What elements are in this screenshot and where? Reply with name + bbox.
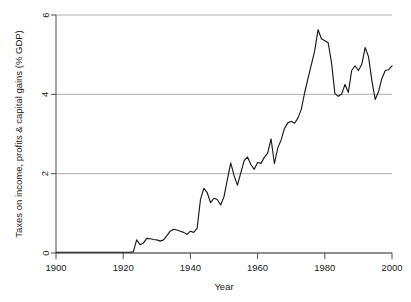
y-tick-marks — [51, 15, 56, 253]
data-series-line — [56, 30, 392, 253]
y-tick-label-6: 6 — [40, 12, 51, 17]
y-tick-labels: 6 4 2 0 — [40, 12, 51, 255]
y-axis-title: Taxes on income, profits & capital gains… — [13, 30, 24, 238]
x-tick-label-1940: 1940 — [180, 262, 201, 273]
x-tick-label-2000: 2000 — [381, 262, 402, 273]
y-tick-label-0: 0 — [40, 250, 51, 255]
y-tick-label-2: 2 — [40, 171, 51, 176]
chart-figure: 6 4 2 0 Taxes on income, profits & capit… — [0, 0, 411, 302]
x-tick-label-1960: 1960 — [247, 262, 268, 273]
chart-canvas: 6 4 2 0 Taxes on income, profits & capit… — [0, 0, 411, 302]
x-axis-title: Year — [214, 281, 233, 292]
x-tick-label-1900: 1900 — [45, 262, 66, 273]
y-tick-label-4: 4 — [40, 92, 51, 97]
gridlines — [56, 15, 392, 253]
x-tick-marks — [56, 253, 392, 259]
x-tick-label-1920: 1920 — [113, 262, 134, 273]
x-tick-label-1980: 1980 — [314, 262, 335, 273]
x-tick-labels: 1900 1920 1940 1960 1980 2000 — [45, 262, 402, 273]
